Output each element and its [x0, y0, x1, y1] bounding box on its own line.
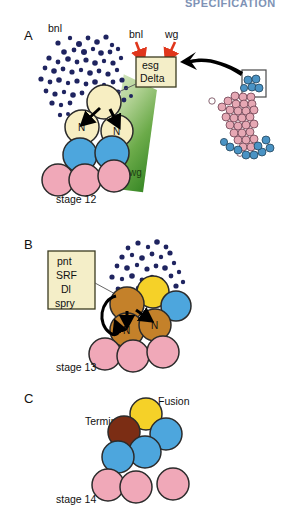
embryo-inset [180, 52, 274, 159]
panel-c: C Fusion Terminal stage 14 [24, 391, 190, 505]
cell-pink-2 [69, 164, 101, 196]
panel-c-letter: C [24, 391, 33, 406]
figure-root: SPECIFICATION A wg [0, 0, 290, 517]
cell-pink-b2 [117, 340, 149, 372]
spry-label: spry [55, 297, 76, 309]
panel-a-letter: A [24, 28, 33, 43]
dl-label: Dl [61, 283, 71, 295]
panel-a-stage-label: stage 12 [56, 193, 96, 205]
wg-input-arrow [169, 42, 175, 55]
inset-callout-arrow [180, 52, 243, 76]
bnl-input-arrow [136, 42, 141, 55]
cell-pink-b3 [147, 336, 179, 368]
cell-brown-left-label: N [123, 325, 130, 336]
panel-b-stage-label: stage 13 [56, 361, 96, 373]
panel-c-stage-label: stage 14 [56, 493, 96, 505]
tracheal-specification-figure: SPECIFICATION A wg [0, 0, 290, 517]
fusion-cell-label: Fusion [158, 395, 190, 407]
delta-label: Delta [140, 72, 165, 84]
cell-pink-3 [98, 160, 130, 192]
cell-tip-left-label: N [78, 122, 85, 133]
panel-a: A wg [24, 22, 274, 205]
cell-pink-c1 [92, 469, 124, 501]
cell-pink-c3 [157, 468, 189, 500]
esg-label: esg [142, 59, 159, 71]
panel-a-bnl-input-label: bnl [129, 28, 143, 40]
panel-a-wg-input-label: wg [164, 28, 179, 40]
panel-a-bnl-cloud-label: bnl [48, 22, 62, 34]
cell-blue-c3 [102, 441, 134, 473]
cell-pink-c2 [120, 471, 152, 503]
pnt-label: pnt [57, 255, 72, 267]
cell-tip-right-label: N [113, 126, 120, 137]
figure-title: SPECIFICATION [185, 0, 276, 9]
srf-label: SRF [56, 269, 77, 281]
panel-c-cells [92, 398, 189, 503]
cell-brown-right-label: N [151, 320, 158, 331]
panel-a-cells: N N [42, 85, 133, 196]
panel-b: B pnt SRF Dl [24, 237, 191, 373]
panel-b-letter: B [24, 237, 33, 252]
panel-b-cells: N N [89, 276, 191, 372]
